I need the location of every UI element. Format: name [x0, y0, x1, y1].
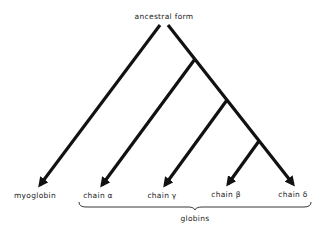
leaf-label-gamma: chain γ: [147, 191, 176, 200]
branch-myoglobin: [40, 25, 160, 185]
group-label-globins: globins: [180, 214, 209, 223]
globins-brace: [79, 202, 311, 210]
branch-alpha: [102, 59, 195, 185]
leaf-label-delta: chain δ: [278, 190, 307, 199]
leaf-label-alpha: chain α: [83, 191, 113, 200]
leaf-label-beta: chain β: [211, 190, 241, 199]
branch-gamma: [165, 100, 227, 185]
leaf-label-myoglobin: myoglobin: [14, 191, 56, 200]
root-label: ancestral form: [135, 12, 194, 21]
branch-delta: [168, 25, 293, 184]
globin-evolution-tree: ancestral form myoglobin chain α chain γ…: [0, 0, 330, 229]
branch-beta: [228, 141, 259, 184]
